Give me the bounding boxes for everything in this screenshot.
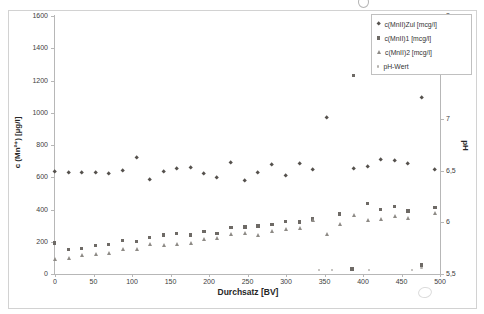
y-left-tick-mark [51,210,54,211]
y-right-tick-mark [441,119,444,120]
y-left-tick-mark [51,48,54,49]
x-tick-label: 350 [313,278,337,286]
y-right-tick-mark [441,222,444,223]
y-right-tick-mark [441,274,444,275]
y-left-tick-mark [51,113,54,114]
data-point-square [270,223,273,226]
data-point-triangle [80,253,84,257]
data-point-square [366,202,369,205]
data-point-square [67,248,70,251]
data-point-triangle [202,237,206,241]
data-point-dot [420,267,422,269]
data-point-triangle [148,242,152,246]
data-point-square [350,267,353,270]
x-tick-mark [325,274,326,277]
legend-label: c(MnII)2 [mcg/l] [385,49,432,56]
data-point-square [393,205,396,208]
legend-entry: c(MnII)Zul [mcg/l] [377,18,437,30]
data-point-square [148,236,151,239]
legend-label: c(MnII)Zul [mcg/l] [384,21,437,28]
cropped-text-artifact [358,0,369,8]
y-left-tick-mark [51,177,54,178]
data-point-triangle [135,247,139,251]
data-point-square [406,209,409,212]
data-point-triangle [379,217,383,221]
x-axis-label: Durchsatz [BV] [55,287,441,297]
y-left-tick-label: 1000 [26,109,48,117]
x-tick-mark [286,274,287,277]
x-tick-label: 500 [428,278,452,286]
x-tick-label: 200 [197,278,221,286]
data-point-square [229,226,232,229]
data-point-square [80,247,83,250]
x-tick-mark [94,274,95,277]
data-point-triangle [107,251,111,255]
triangle-marker-icon [377,50,381,54]
data-point-triangle [53,257,57,261]
data-point-triangle [67,256,71,260]
y-right-tick-label: 6,5 [446,167,456,175]
dot-marker-icon [377,65,379,67]
legend-entry: c(MnII)1 [mcg/l] [377,32,431,44]
y-left-tick-label: 1600 [26,12,48,20]
x-tick-label: 300 [274,278,298,286]
legend-entry: c(MnII)2 [mcg/l] [377,46,432,58]
x-tick-mark [132,274,133,277]
data-point-triangle [162,243,166,247]
data-point-square [162,233,165,236]
legend-entry: pH-Wert [377,61,409,73]
data-point-square [215,232,218,235]
x-tick-label: 450 [390,278,414,286]
data-point-square [121,239,124,242]
y-right-tick-label: 5,5 [446,270,456,278]
y-left-tick-label: 1400 [26,44,48,52]
data-point-triangle [325,232,329,236]
data-point-triangle [311,218,315,222]
data-point-square [256,224,259,227]
data-point-triangle [393,214,397,218]
data-point-square [94,244,97,247]
x-tick-label: 250 [236,278,260,286]
legend: c(MnII)Zul [mcg/l]c(MnII)1 [mcg/l]c(MnII… [371,14,472,75]
x-tick-label: 50 [82,278,106,286]
data-point-square [379,208,382,211]
y-axis-left-line [54,15,55,274]
y-right-tick-mark [441,171,444,172]
data-point-triangle [189,241,193,245]
data-point-square [53,241,56,244]
data-point-triangle [433,211,437,215]
y-left-tick-mark [51,16,54,17]
data-point-square [175,232,178,235]
data-point-triangle [284,227,288,231]
data-point-square [352,74,355,77]
data-point-square [338,212,341,215]
legend-label: pH-Wert [383,63,408,70]
data-point-square [433,206,436,209]
data-point-triangle [406,216,410,220]
x-tick-label: 0 [43,278,67,286]
y-right-tick-label: 7 [446,115,450,123]
data-point-triangle [270,229,274,233]
data-point-square [202,230,205,233]
y-axis-left-label: c (Mn²⁺) [µg/l] [13,103,22,183]
diamond-marker-icon [376,22,381,27]
y-left-tick-mark [51,274,54,275]
data-point-square [135,240,138,243]
square-marker-icon [377,36,380,39]
y-left-tick-label: 200 [26,238,48,246]
y-left-tick-label: 400 [26,206,48,214]
y-left-tick-mark [51,145,54,146]
data-point-square [107,243,110,246]
data-point-triangle [229,232,233,236]
data-point-square [284,220,287,223]
x-tick-mark [363,274,364,277]
legend-label: c(MnII)1 [mcg/l] [384,35,431,42]
data-point-triangle [256,233,260,237]
y-left-tick-label: 0 [26,270,48,278]
x-tick-mark [402,274,403,277]
data-point-triangle [243,231,247,235]
data-point-triangle [175,242,179,246]
data-point-triangle [298,226,302,230]
x-tick-label: 150 [159,278,183,286]
x-tick-mark [55,274,56,277]
